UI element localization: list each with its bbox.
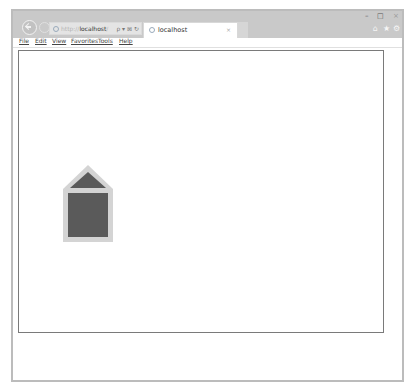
menu-bar: File Edit View Favorites Tools Help — [13, 38, 402, 48]
maximize-button[interactable]: □ — [377, 12, 384, 20]
menu-edit[interactable]: Edit — [35, 37, 47, 44]
minimize-button[interactable]: – — [365, 12, 369, 20]
tab-label: localhost — [158, 26, 187, 34]
tab-favicon-icon — [149, 27, 155, 33]
page-content-frame — [18, 50, 384, 333]
browser-window: http://localhost/ ρ ▾ ⊠ ↻ localhost × – … — [11, 9, 404, 382]
house-body — [68, 193, 108, 237]
tab-close-icon[interactable]: × — [226, 23, 231, 37]
back-button[interactable] — [22, 20, 37, 35]
home-icon[interactable]: ⌂ — [373, 24, 378, 33]
tab-localhost[interactable]: localhost × — [143, 22, 238, 38]
title-bar: http://localhost/ ρ ▾ ⊠ ↻ localhost × – … — [13, 11, 402, 38]
house-shape — [62, 164, 114, 243]
address-bar-icons[interactable]: ρ ▾ ⊠ ↻ — [116, 23, 139, 34]
menu-view[interactable]: View — [52, 37, 66, 44]
address-host: localhost — [79, 25, 106, 32]
favorites-star-icon[interactable]: ★ — [383, 24, 390, 33]
menu-file[interactable]: File — [19, 37, 29, 44]
address-bar[interactable]: http://localhost/ ρ ▾ ⊠ ↻ — [49, 22, 142, 35]
menu-favorites[interactable]: Favorites — [71, 37, 98, 44]
menu-tools[interactable]: Tools — [98, 37, 113, 44]
address-path: / — [106, 25, 108, 32]
page-favicon-icon — [53, 26, 59, 32]
tools-gear-icon[interactable]: ⚙ — [393, 24, 400, 33]
menu-help[interactable]: Help — [119, 37, 133, 44]
close-button[interactable]: × — [393, 12, 399, 20]
address-protocol: http:// — [61, 25, 79, 32]
new-tab-button[interactable] — [238, 22, 248, 38]
